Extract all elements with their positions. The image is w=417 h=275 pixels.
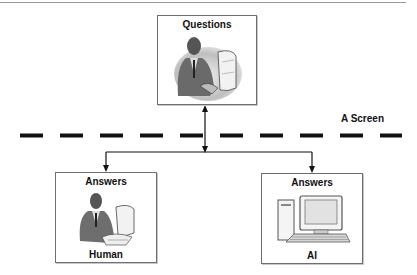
person-at-computer-icon [172, 34, 244, 102]
answers-ai-box: Answers AI [261, 173, 363, 264]
questions-box: Questions [157, 15, 257, 105]
questions-title: Questions [158, 19, 256, 30]
screen-label: A Screen [341, 113, 384, 124]
arrow-to-ai [309, 166, 315, 173]
desktop-computer-icon [276, 192, 352, 248]
answers-human-title: Answers [56, 176, 156, 187]
arrow-to-human [103, 165, 109, 172]
answers-human-box: Answers Human [55, 172, 157, 263]
answers-ai-caption: AI [262, 250, 362, 261]
answers-human-caption: Human [56, 249, 156, 260]
person-at-computer-icon [76, 191, 140, 249]
answers-ai-title: Answers [262, 177, 362, 188]
